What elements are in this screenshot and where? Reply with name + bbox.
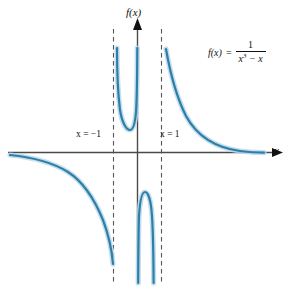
- formula-den-exponent: 3: [243, 52, 247, 60]
- x-axis-label: x: [274, 144, 279, 156]
- formula-denominator: x3 − x: [236, 52, 266, 64]
- y-axis-arrow-icon: [133, 18, 142, 30]
- formula-numerator: 1: [243, 40, 258, 51]
- asymptote-label-left: x = −1: [76, 129, 101, 139]
- formula-fraction: 1 x3 − x: [236, 40, 266, 64]
- figure-caption: [0, 288, 289, 296]
- y-axis-label: f(x): [126, 6, 141, 18]
- formula-equals: =: [226, 47, 232, 58]
- function-formula: f(x) = 1 x3 − x: [208, 40, 266, 64]
- formula-lhs: f(x): [208, 47, 222, 58]
- curve-branch-left-outer: [10, 155, 113, 264]
- asymptote-label-right: x = 1: [160, 129, 180, 139]
- formula-den-tail: − x: [249, 53, 263, 64]
